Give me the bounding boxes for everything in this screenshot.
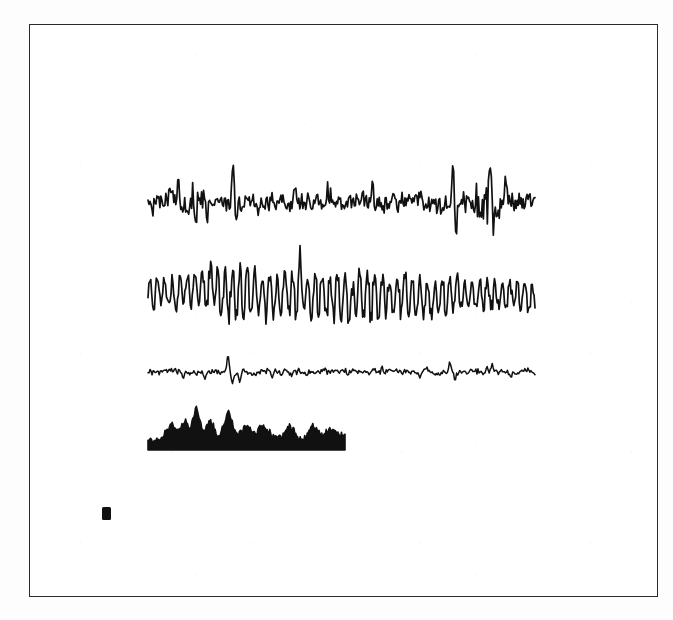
calibration-mark [102,507,111,520]
figure-root [0,0,673,620]
scan-noise-overlay [31,26,656,595]
